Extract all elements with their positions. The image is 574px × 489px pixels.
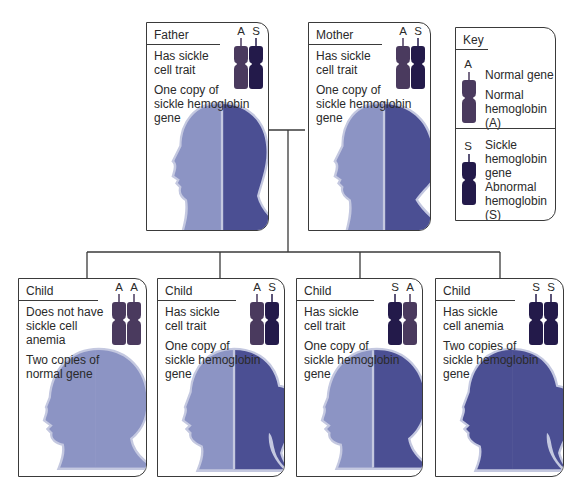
card-title-rule <box>297 300 374 301</box>
card-title: Child <box>304 284 331 298</box>
normal-chromosome-icon <box>127 294 141 348</box>
allele-label: A <box>396 25 410 37</box>
card-status-text: Has sickle cell trait <box>304 305 359 333</box>
allele-label: S <box>529 281 543 293</box>
card-status-text: Has sickle cell trait <box>154 49 209 77</box>
allele-label: S <box>388 281 402 293</box>
card-title: Child <box>443 284 470 298</box>
card-title: Child <box>26 284 53 298</box>
key-normal-hemoglobin-label: Normal hemoglobin (A) <box>485 88 547 130</box>
card-title-rule <box>436 300 515 301</box>
card-title: Father <box>154 28 189 42</box>
key-title-rule <box>456 49 488 50</box>
key-normal-allele-label: A <box>461 58 475 70</box>
allele-label: A <box>250 281 264 293</box>
key-divider <box>456 128 555 129</box>
parent-card-mother: MotherASHas sickle cell traitOne copy of… <box>308 22 431 231</box>
card-title-rule <box>309 44 382 45</box>
child-card-4: ChildSSHas sickle cell anemiaTwo copies … <box>435 278 564 477</box>
card-title-rule <box>147 44 220 45</box>
sickle-chromosome-icon <box>544 294 558 348</box>
parent-card-father: FatherASHas sickle cell traitOne copy of… <box>146 22 269 231</box>
sickle-chromosome-icon <box>411 38 425 92</box>
normal-chromosome-icon <box>462 72 476 126</box>
allele-label: A <box>127 281 141 293</box>
key-normal-gene-label: Normal gene <box>485 68 554 82</box>
card-status-text: Does not have sickle cell anemia <box>26 305 103 347</box>
card-description-text: Two copies of sickle hemoglobin gene <box>443 339 538 381</box>
allele-label: S <box>265 281 279 293</box>
child-card-3: ChildSAHas sickle cell traitOne copy of … <box>296 278 423 477</box>
card-title-rule <box>158 300 236 301</box>
sickle-chromosome-icon <box>462 154 476 208</box>
child-card-2: ChildASHas sickle cell traitOne copy of … <box>157 278 285 477</box>
allele-label: A <box>234 25 248 37</box>
allele-label: A <box>403 281 417 293</box>
card-description-text: One copy of sickle hemoglobin gene <box>154 83 249 125</box>
normal-chromosome-icon <box>112 294 126 348</box>
key-panel: Key A Normal gene Normal hemoglobin (A) … <box>455 27 556 221</box>
card-description-text: One copy of sickle hemoglobin gene <box>304 339 399 381</box>
card-description-text: Two copies of normal gene <box>26 353 99 381</box>
normal-chromosome-icon <box>403 294 417 348</box>
allele-label: S <box>411 25 425 37</box>
card-title: Mother <box>316 28 353 42</box>
sickle-chromosome-icon <box>249 38 263 92</box>
allele-label: S <box>544 281 558 293</box>
card-status-text: Has sickle cell trait <box>165 305 220 333</box>
card-description-text: One copy of sickle hemoglobin gene <box>316 83 411 125</box>
key-sickle-allele-label: S <box>461 140 475 152</box>
sickle-chromosome-icon <box>265 294 279 348</box>
child-card-1: ChildAADoes not have sickle cell anemiaT… <box>18 278 147 477</box>
card-description-text: One copy of sickle hemoglobin gene <box>165 339 260 381</box>
allele-label: A <box>112 281 126 293</box>
allele-label: S <box>249 25 263 37</box>
card-status-text: Has sickle cell anemia <box>443 305 504 333</box>
card-title: Child <box>165 284 192 298</box>
key-title: Key <box>463 33 484 47</box>
key-sickle-gene-label: Sickle hemoglobin gene <box>485 138 547 180</box>
key-abnormal-hemoglobin-label: Abnormal hemoglobin (S) <box>485 180 547 221</box>
card-status-text: Has sickle cell trait <box>316 49 371 77</box>
card-title-rule <box>19 300 98 301</box>
